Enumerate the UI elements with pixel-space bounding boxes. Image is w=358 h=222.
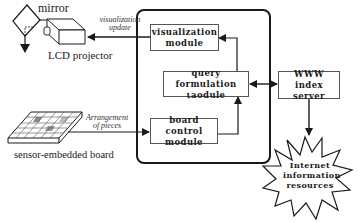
www-index-line-2: server	[279, 91, 339, 102]
visualization-module: visualization module	[150, 24, 219, 51]
query-formulation-line-1: query formulation	[164, 68, 248, 90]
board-control-line-1: board control	[151, 115, 217, 137]
internet-line-3: resources	[283, 180, 337, 190]
mirror-label: mirror	[38, 1, 69, 16]
sensor-board-icon	[8, 112, 82, 143]
visualization-update-label: visualization update	[92, 16, 148, 32]
internet-line-2: information	[283, 170, 337, 180]
arrangement-line-2: of pieces	[80, 122, 134, 130]
visualization-module-line-2: module	[152, 38, 218, 49]
www-index-server: WWW index server	[278, 71, 340, 99]
board-control-line-2: module	[151, 137, 217, 148]
internet-resources-label: Internet information resources	[283, 160, 337, 190]
www-index-line-1: WWW index	[279, 69, 339, 91]
board-label: sensor-embedded board	[14, 149, 114, 160]
projector-icon	[44, 19, 85, 44]
query-formulation-line-2: ιaodule	[164, 90, 248, 101]
arrangement-label: Arrangement of pieces	[80, 114, 134, 130]
query-formulation-module: query formulation ιaodule	[163, 71, 249, 97]
visualization-module-line-1: visualization	[152, 27, 218, 38]
visualization-update-line-2: update	[92, 24, 148, 32]
projector-label: LCD projector	[48, 49, 112, 61]
internet-line-1: Internet	[283, 160, 337, 170]
board-control-module: board control module	[150, 118, 218, 144]
arrow-board-to-query	[218, 97, 238, 134]
